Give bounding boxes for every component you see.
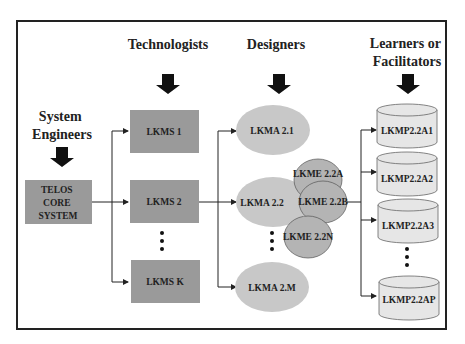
lkmp-label-a2: LKMP2.2A2 — [381, 174, 433, 184]
lkma-label-2-m: LKMA 2.M — [248, 283, 296, 293]
lkma-label-2-1: LKMA 2.1 — [250, 126, 294, 136]
lkme-label-2-2n: LKME 2.2N — [283, 232, 333, 242]
lkme-label-2-2b: LKME 2.2B — [298, 197, 348, 207]
ellipsis-dots-icon — [270, 231, 274, 251]
ellipsis-dots-icon — [405, 247, 409, 267]
down-arrow-icon — [156, 74, 180, 94]
down-arrow-icon — [396, 74, 420, 94]
lkms-label-2: LKMS 2 — [146, 197, 181, 207]
telos-core-label: TELOS CORE SYSTEM — [38, 185, 77, 221]
role-technologists: Technologists — [128, 37, 209, 52]
lkma-label-2-2: LKMA 2.2 — [240, 198, 284, 208]
lkmp-label-a3: LKMP2.2A3 — [382, 221, 434, 231]
diagram: System Engineers Technologists Designers… — [0, 0, 465, 344]
role-designers: Designers — [247, 37, 306, 52]
lkmp-label-a1: LKMP2.2A1 — [381, 126, 433, 136]
role-learners: Learners or Facilitators — [370, 36, 444, 69]
lkmp-label-ap: LKMP2.2AP — [382, 295, 435, 305]
down-arrow-icon — [50, 147, 74, 167]
lkms-label-k: LKMS K — [146, 277, 184, 287]
lkme-label-2-2a: LKME 2.2A — [293, 169, 343, 179]
down-arrow-icon — [267, 74, 291, 94]
ellipsis-dots-icon — [160, 231, 164, 251]
role-system-engineers: System Engineers — [32, 109, 92, 142]
lkms-label-1: LKMS 1 — [146, 127, 181, 137]
